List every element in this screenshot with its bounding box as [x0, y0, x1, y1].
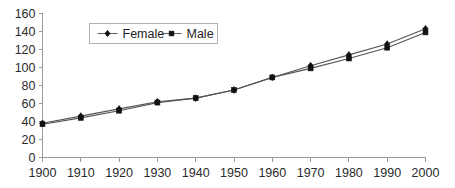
data-point-marker	[193, 96, 198, 101]
series-line-male	[43, 32, 426, 124]
legend-label-female: Female	[123, 27, 165, 41]
data-point-marker	[346, 56, 351, 61]
x-tick-label: 1940	[182, 166, 210, 180]
y-tick-label: 120	[15, 43, 36, 57]
data-point-marker	[423, 30, 428, 35]
square-marker-icon	[169, 31, 174, 36]
legend-label-male: Male	[187, 27, 214, 41]
x-tick-label: 1990	[373, 166, 401, 180]
data-point-marker	[270, 75, 275, 80]
x-tick-label: 1920	[105, 166, 133, 180]
data-point-marker	[308, 66, 313, 71]
data-point-marker	[78, 115, 83, 120]
x-axis: 1900191019201930194019501960197019801990…	[29, 158, 440, 180]
chart-legend: FemaleMale	[90, 24, 218, 44]
data-point-marker	[40, 122, 45, 127]
y-tick-label: 60	[22, 97, 36, 111]
x-tick-label: 1900	[29, 166, 57, 180]
y-tick-label: 160	[15, 7, 36, 21]
x-tick-label: 1910	[67, 166, 95, 180]
data-point-marker	[117, 108, 122, 113]
x-tick-label: 1970	[297, 166, 325, 180]
x-tick-label: 1960	[258, 166, 286, 180]
y-tick-label: 80	[22, 79, 36, 93]
y-tick-label: 100	[15, 61, 36, 75]
data-point-marker	[385, 45, 390, 50]
x-tick-label: 1930	[143, 166, 171, 180]
y-axis: 020406080100120140160	[15, 7, 43, 165]
x-tick-label: 2000	[412, 166, 440, 180]
x-tick-label: 1980	[335, 166, 363, 180]
y-tick-label: 40	[22, 115, 36, 129]
data-point-marker	[155, 100, 160, 105]
y-tick-label: 0	[29, 151, 36, 165]
series-male	[40, 30, 428, 127]
y-tick-label: 20	[22, 133, 36, 147]
y-tick-label: 140	[15, 25, 36, 39]
x-tick-label: 1950	[220, 166, 248, 180]
data-point-marker	[232, 88, 237, 93]
line-chart: 020406080100120140160 190019101920193019…	[0, 0, 455, 188]
chart-canvas: 020406080100120140160 190019101920193019…	[0, 0, 455, 188]
